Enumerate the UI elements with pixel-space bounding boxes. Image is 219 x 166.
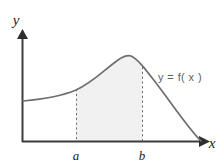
y-axis-label: y (11, 12, 20, 28)
tick-label-a: a (73, 148, 80, 163)
x-axis-label: x (208, 135, 216, 151)
integral-figure: y x a b y = f( x ) (0, 0, 219, 166)
tick-label-b: b (139, 148, 146, 163)
figure-canvas: y x a b y = f( x ) (0, 0, 219, 166)
function-label: y = f( x ) (158, 71, 202, 83)
